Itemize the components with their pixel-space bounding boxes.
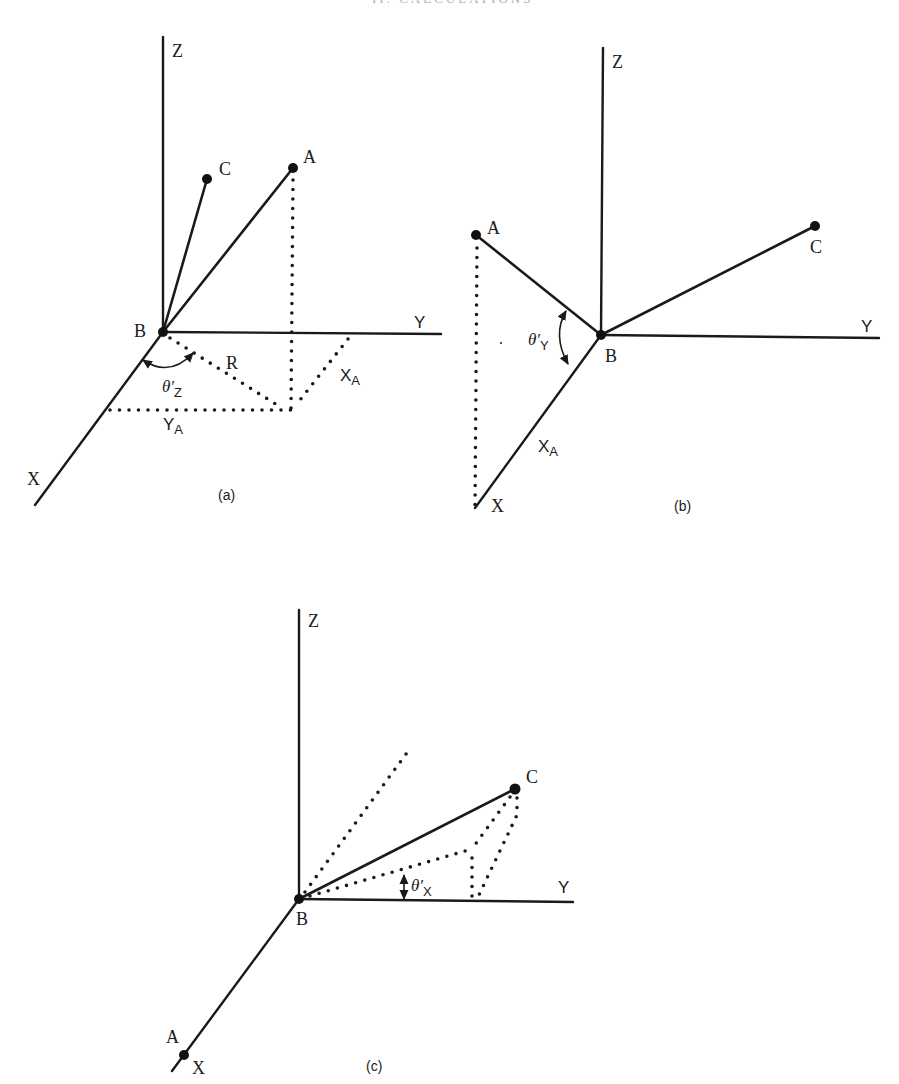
segment-bc-b [601,226,815,335]
segment-ba-b [476,235,601,335]
panel-c: Z C Y B θ′X A X (c) [166,610,573,1078]
point-b-b [596,330,606,340]
point-a-b [471,230,481,240]
label-theta-z: θ′Z [162,377,182,400]
x-axis-a [35,332,163,505]
point-c-a [202,174,212,184]
label-y-a: Y [414,313,425,332]
x-axis-c [172,899,299,1071]
label-a-c: A [166,1027,179,1047]
label-c-c: C [526,767,538,787]
segment-bc-a [163,179,207,332]
label-ya-a: YA [163,415,183,437]
panel-b: Z A C Y B θ′Y XA X (b) [471,48,879,516]
point-b-c [294,894,304,904]
y-axis-a [163,332,441,334]
label-r: R [226,353,238,373]
dotted-r [170,338,282,408]
stray-mark [500,342,502,344]
y-axis-c [299,899,573,902]
label-xa-b: XA [538,437,558,459]
x-axis-b [475,335,601,508]
label-y-c: Y [558,878,569,897]
label-theta-y: θ′Y [528,330,549,353]
panel-a: Z C A B Y R XA θ′Z YA X (a) [27,37,441,505]
label-xa-a: XA [340,366,360,388]
label-y-b: Y [861,317,872,336]
label-c-b: C [810,237,822,257]
label-a-b: A [487,218,500,238]
dotted-a-drop [291,180,293,410]
y-axis-b [601,335,879,338]
angle-arc-theta-z [143,353,193,368]
label-z-a: Z [172,41,183,61]
point-a-c [179,1050,189,1060]
point-c-b [810,221,820,231]
segment-ba-a [163,168,293,332]
segment-bc-c [299,789,515,899]
dotted-projection [310,849,472,896]
label-c-a: C [219,159,231,179]
label-x-c: X [192,1058,205,1078]
label-z-c: Z [308,611,319,631]
point-b-a [158,327,168,337]
caption-b: (b) [674,498,691,514]
dotted-c-to-proj [474,797,510,846]
dotted-a-drop-b [475,248,477,508]
caption-c: (c) [366,1058,382,1074]
label-a-a: A [303,147,316,167]
coordinate-rotation-figure: Z C A B Y R XA θ′Z YA X (a) Z A C Y B θ′… [0,0,899,1084]
label-x-a: X [27,469,40,489]
angle-arc-theta-y [559,311,568,364]
z-axis-b [601,48,603,335]
label-b-c: B [296,909,308,929]
caption-a: (a) [218,487,235,503]
label-theta-x: θ′X [411,876,432,899]
point-a-a [288,163,298,173]
label-x-b: X [491,496,504,516]
label-b-b: B [605,346,617,366]
label-b-a: B [134,321,146,341]
label-z-b: Z [612,52,623,72]
point-c-c [510,784,521,795]
